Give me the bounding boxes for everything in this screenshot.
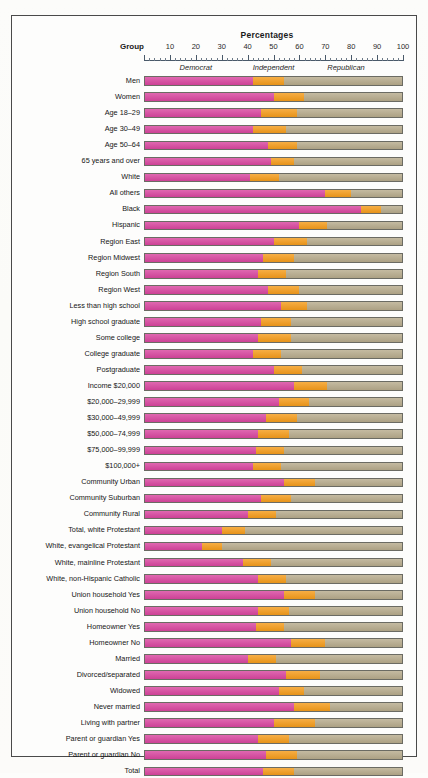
bar-segment-democrat xyxy=(145,623,257,631)
bar-segment-democrat xyxy=(145,350,254,358)
axis-minor-tick-4 xyxy=(154,58,155,61)
stacked-bar xyxy=(144,622,403,632)
axis-minor-tick-54 xyxy=(284,58,285,61)
bar-segment-republican xyxy=(304,93,402,101)
axis-major-tick-40 xyxy=(248,55,249,61)
bar-row-label: Men xyxy=(12,75,140,88)
bar-segment-republican xyxy=(325,639,402,647)
bar-row-label: White xyxy=(12,171,140,184)
stacked-bar xyxy=(144,542,403,552)
bar-row: Region West xyxy=(12,284,403,297)
stacked-bar xyxy=(144,285,403,295)
axis-minor-tick-62 xyxy=(305,58,306,61)
bar-segment-democrat xyxy=(145,495,262,503)
stacked-bar xyxy=(144,397,403,407)
bar-row: Never married xyxy=(12,701,403,714)
bar-segment-independent xyxy=(248,655,277,663)
stacked-bar xyxy=(144,429,403,439)
axis-major-tick-10 xyxy=(170,55,171,61)
axis-minor-tick-18 xyxy=(191,58,192,61)
stacked-bar xyxy=(144,606,403,616)
axis-minor-tick-36 xyxy=(237,58,238,61)
stacked-bar xyxy=(144,510,403,520)
axis-major-tick-100 xyxy=(403,55,404,61)
bar-row-label: Region South xyxy=(12,268,140,281)
bar-segment-republican xyxy=(309,398,402,406)
bar-segment-republican xyxy=(222,543,402,551)
stacked-bar xyxy=(144,125,403,135)
axis-minor-tick-24 xyxy=(206,58,207,61)
bar-segment-democrat xyxy=(145,655,249,663)
bar-row-label: High school graduate xyxy=(12,316,140,329)
stacked-bar xyxy=(144,702,403,712)
x-tick-label-100: 100 xyxy=(397,42,410,51)
bar-row: Married xyxy=(12,653,403,666)
bar-segment-democrat xyxy=(145,238,275,246)
bar-row: Age 18–29 xyxy=(12,107,403,120)
axis-minor-tick-22 xyxy=(201,58,202,61)
bar-segment-independent xyxy=(294,703,331,711)
axis-major-tick-50 xyxy=(274,55,275,61)
axis-minor-tick-82 xyxy=(356,58,357,61)
bar-segment-democrat xyxy=(145,559,244,567)
bar-row-label: $100,000+ xyxy=(12,460,140,473)
bar-segment-democrat xyxy=(145,479,285,487)
bar-segment-independent xyxy=(279,398,311,406)
bar-segment-independent xyxy=(279,687,306,695)
bar-segment-democrat xyxy=(145,318,262,326)
axis-minor-tick-78 xyxy=(346,58,347,61)
bar-segment-independent xyxy=(266,751,298,759)
bar-segment-republican xyxy=(284,623,402,631)
bar-row: Widowed xyxy=(12,685,403,698)
bar-row: Living with partner xyxy=(12,717,403,730)
axis-major-tick-70 xyxy=(325,55,326,61)
bar-row: $20,000–29,999 xyxy=(12,396,403,409)
bar-segment-republican xyxy=(245,527,402,535)
stacked-bar xyxy=(144,317,403,327)
bar-row: $50,000–74,999 xyxy=(12,428,403,441)
axis-minor-tick-26 xyxy=(211,58,212,61)
bar-segment-democrat xyxy=(145,687,280,695)
bar-segment-republican xyxy=(286,270,402,278)
bar-segment-independent xyxy=(263,768,295,776)
stacked-bar xyxy=(144,333,403,343)
bar-segment-democrat xyxy=(145,174,251,182)
bar-segment-independent xyxy=(202,543,224,551)
stacked-bar xyxy=(144,750,403,760)
bar-row-label: White, evangelical Protestant xyxy=(12,540,140,553)
bar-row: Black xyxy=(12,203,403,216)
axis-minor-tick-14 xyxy=(180,58,181,61)
axis-major-tick-30 xyxy=(222,55,223,61)
stacked-bar xyxy=(144,365,403,375)
bar-segment-democrat xyxy=(145,703,295,711)
bar-segment-republican xyxy=(351,190,402,198)
axis-major-tick-60 xyxy=(299,55,300,61)
x-tick-label-70: 70 xyxy=(321,42,329,51)
bar-segment-democrat xyxy=(145,286,269,294)
bar-segment-republican xyxy=(281,350,402,358)
axis-minor-tick-56 xyxy=(289,58,290,61)
bar-row: Women xyxy=(12,91,403,104)
axis-minor-tick-16 xyxy=(185,58,186,61)
x-tick-label-40: 40 xyxy=(243,42,251,51)
axis-minor-tick-84 xyxy=(362,58,363,61)
x-tick-label-80: 80 xyxy=(347,42,355,51)
bar-row: Less than high school xyxy=(12,300,403,313)
bar-row-label: White, non-Hispanic Catholic xyxy=(12,573,140,586)
stacked-bar xyxy=(144,141,403,151)
axis-minor-tick-94 xyxy=(387,58,388,61)
bar-row-label: Never married xyxy=(12,701,140,714)
stacked-bar xyxy=(144,494,403,504)
axis-minor-tick-72 xyxy=(330,58,331,61)
bar-segment-independent xyxy=(263,254,295,262)
bar-segment-independent xyxy=(361,206,383,214)
bar-segment-republican xyxy=(307,238,402,246)
bar-row-label: Community Rural xyxy=(12,508,140,521)
stacked-bar xyxy=(144,718,403,728)
bar-segment-independent xyxy=(258,607,290,615)
bar-segment-independent xyxy=(253,463,282,471)
bar-segment-democrat xyxy=(145,158,272,166)
bar-row-label: Some college xyxy=(12,332,140,345)
bar-segment-democrat xyxy=(145,109,262,117)
